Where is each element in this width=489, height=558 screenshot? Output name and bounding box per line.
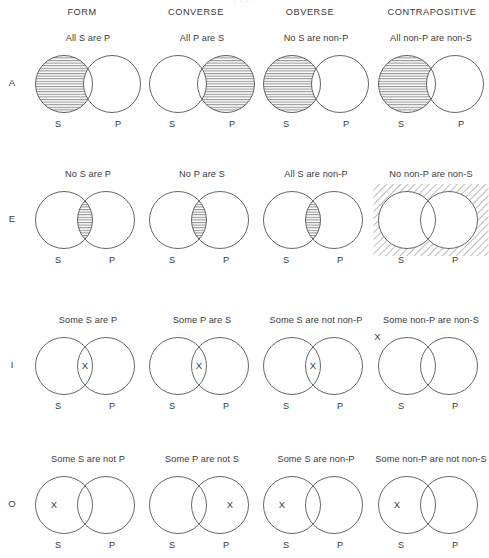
set-label-s: S: [55, 540, 61, 550]
shading-outside-rectangle: [374, 184, 489, 256]
venn-caption: Some P are S: [173, 315, 231, 325]
venn-set-labels: SP: [144, 255, 260, 269]
venn-cell-e-contrapositive: No non-P are non-SSP: [373, 169, 489, 273]
set-label-s: S: [283, 119, 289, 129]
set-label-p: P: [452, 540, 458, 550]
set-label-p: P: [458, 119, 464, 129]
clipped-header-text: · · · ·: [0, 0, 489, 3]
venn-circle-p: [192, 477, 249, 534]
row-letter-A: A: [4, 77, 20, 88]
venn-caption: No S are non-P: [284, 33, 349, 43]
set-label-s: S: [283, 255, 289, 265]
column-header-contrapositive: CONTRAPOSITIVE: [388, 7, 477, 17]
venn-svg: X: [30, 329, 146, 403]
set-label-s: S: [283, 401, 289, 411]
venn-cell-o-obverse: Some S are non-PXSP: [258, 454, 374, 558]
venn-set-labels: SP: [258, 119, 374, 133]
venn-set-labels: SP: [30, 119, 146, 133]
venn-set-labels: SP: [373, 540, 489, 554]
venn-figure: [258, 47, 374, 121]
venn-svg: [30, 47, 146, 121]
column-header-form: FORM: [67, 7, 96, 17]
x-marker: X: [374, 331, 381, 342]
venn-set-labels: SP: [30, 255, 146, 269]
shading-right-circle: [144, 47, 260, 121]
venn-figure: X: [144, 468, 260, 542]
venn-cell-a-form: All S are PSP: [30, 33, 146, 137]
venn-svg: X: [258, 468, 374, 542]
set-label-s: S: [398, 255, 404, 265]
venn-caption: Some non-P are non-S: [383, 315, 479, 325]
venn-set-labels: SP: [373, 401, 489, 415]
set-label-p: P: [452, 255, 458, 265]
venn-figure: [258, 183, 374, 257]
venn-set-labels: SP: [373, 119, 489, 133]
venn-figure: [30, 183, 146, 257]
venn-cell-i-contrapositive: Some non-P are non-SXSP: [373, 315, 489, 419]
venn-figure: [144, 183, 260, 257]
x-marker: X: [310, 360, 317, 371]
column-header-obverse: OBVERSE: [286, 7, 334, 17]
shading-left-circle: [258, 47, 374, 121]
shading-lens: [144, 183, 260, 257]
set-label-s: S: [169, 255, 175, 265]
venn-svg: X: [30, 468, 146, 542]
venn-caption: Some S are P: [59, 315, 117, 325]
set-label-s: S: [398, 401, 404, 411]
venn-circle-p: [421, 338, 478, 395]
venn-svg: [30, 183, 146, 257]
set-label-s: S: [169, 540, 175, 550]
venn-caption: All S are non-P: [284, 169, 347, 179]
venn-cell-a-contrapositive: All non-P are non-SSP: [373, 33, 489, 137]
venn-set-labels: SP: [30, 540, 146, 554]
row-letter-I: I: [4, 359, 20, 370]
row-letter-E: E: [4, 213, 20, 224]
venn-caption: Some S are not P: [51, 454, 125, 464]
set-label-s: S: [283, 540, 289, 550]
venn-svg: [144, 183, 260, 257]
venn-set-labels: SP: [144, 540, 260, 554]
venn-circle-s: [264, 477, 321, 534]
venn-cell-e-obverse: All S are non-PSP: [258, 169, 374, 273]
venn-cell-o-contrapositive: Some non-P are not non-SXSP: [373, 454, 489, 558]
x-marker: X: [82, 360, 89, 371]
x-marker: X: [279, 499, 286, 510]
venn-figure: X: [373, 468, 489, 542]
venn-caption: Some P are not S: [165, 454, 239, 464]
venn-figure: X: [258, 468, 374, 542]
venn-figure: X: [144, 329, 260, 403]
set-label-p: P: [223, 255, 229, 265]
venn-circle-s: [150, 477, 207, 534]
venn-circle-s: [379, 477, 436, 534]
venn-caption: No P are S: [179, 169, 225, 179]
venn-svg: X: [258, 329, 374, 403]
venn-svg: X: [144, 329, 260, 403]
venn-cell-e-converse: No P are SSP: [144, 169, 260, 273]
set-label-s: S: [169, 119, 175, 129]
venn-set-labels: SP: [258, 540, 374, 554]
venn-cell-a-converse: All P are SSP: [144, 33, 260, 137]
venn-caption: All non-P are non-S: [390, 33, 472, 43]
shading-lens: [258, 183, 374, 257]
set-label-p: P: [452, 401, 458, 411]
venn-cell-i-form: Some S are PXSP: [30, 315, 146, 419]
row-letter-O: O: [4, 498, 20, 509]
x-marker: X: [196, 360, 203, 371]
venn-caption: All P are S: [180, 33, 224, 43]
venn-figure: X: [30, 468, 146, 542]
venn-figure: X: [30, 329, 146, 403]
venn-circle-p: [421, 477, 478, 534]
venn-svg: [373, 183, 489, 257]
x-marker: X: [394, 499, 401, 510]
set-label-s: S: [398, 540, 404, 550]
set-label-p: P: [337, 540, 343, 550]
set-label-p: P: [115, 119, 121, 129]
venn-set-labels: SP: [258, 255, 374, 269]
venn-circle-p: [306, 477, 363, 534]
venn-cell-e-form: No S are PSP: [30, 169, 146, 273]
venn-caption: All S are P: [66, 33, 111, 43]
venn-svg: [373, 47, 489, 121]
venn-figure: [373, 47, 489, 121]
set-label-p: P: [223, 540, 229, 550]
venn-figure: [144, 47, 260, 121]
